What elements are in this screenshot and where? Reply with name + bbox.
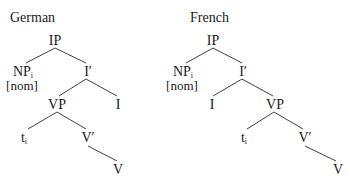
german-np-node: NPi (13, 64, 33, 79)
tree-branch (186, 48, 213, 63)
tree-branch (213, 48, 242, 63)
french-ip-node: IP (207, 33, 219, 48)
tree-branch (26, 48, 55, 63)
german-vp-node: VP (48, 97, 66, 112)
french-ibar-node: I′ (239, 64, 247, 79)
german-vbar-node: V′ (81, 130, 94, 145)
syntax-tree-comparison: German IP NPi [nom] I′ VP I ti V′ V Fren… (0, 0, 350, 178)
french-vbar-node: V′ (298, 130, 311, 145)
german-tree-title: German (10, 10, 55, 26)
german-ibar-node: I′ (84, 64, 92, 79)
french-nom-feature: [nom] (166, 79, 198, 93)
french-trace-node: ti (241, 130, 247, 145)
french-vp-node: VP (266, 97, 284, 112)
german-ip-node: IP (49, 33, 61, 48)
tree-branch (28, 112, 57, 129)
french-tree-title: French (190, 10, 229, 26)
tree-branch (55, 48, 86, 63)
tree-branch (86, 79, 117, 96)
german-nom-feature: [nom] (6, 79, 38, 93)
german-v-node: V (113, 162, 123, 177)
german-trace-node: ti (21, 130, 27, 145)
tree-branch (242, 79, 273, 96)
tree-branch (57, 112, 86, 129)
tree-branch (59, 79, 86, 96)
tree-branch (88, 146, 117, 161)
french-np-node: NPi (173, 64, 193, 79)
tree-branch (247, 112, 274, 129)
tree-branch (213, 79, 242, 96)
tree-branch (305, 146, 336, 161)
tree-branch (274, 112, 303, 129)
french-v-node: V (333, 162, 343, 177)
french-i-node: I (210, 97, 215, 112)
german-i-node: I (116, 97, 121, 112)
